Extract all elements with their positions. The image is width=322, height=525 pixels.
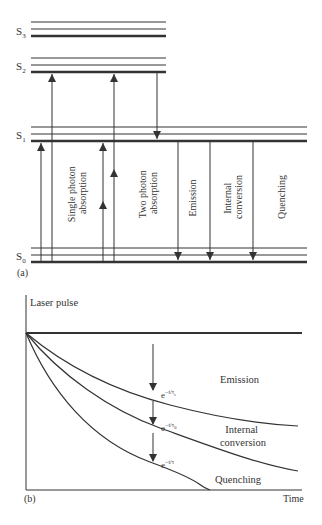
curve-label-emission: Emission bbox=[220, 374, 260, 385]
curve-label-quenching: Quenching bbox=[215, 474, 262, 485]
process-labels: Single photon absorption Two photon abso… bbox=[66, 164, 287, 222]
level-s2 bbox=[31, 58, 166, 72]
panel-a-label: (a) bbox=[17, 267, 28, 279]
jablonski-figure: S3 S2 S1 S0 (a) Single photon absorption… bbox=[0, 0, 322, 525]
label-quenching: Quenching bbox=[276, 175, 287, 219]
quenching-curve bbox=[26, 333, 210, 490]
level-label-s2: S2 bbox=[16, 60, 26, 75]
s2-s1-relaxation-arrow bbox=[153, 72, 161, 139]
label-internal-conversion: Internal conversion bbox=[222, 175, 244, 219]
panel-a-energy-diagram bbox=[31, 22, 307, 262]
two-photon-arrows bbox=[99, 74, 118, 262]
level-labels: S3 S2 S1 S0 (a) bbox=[16, 25, 28, 279]
figure-canvas: S3 S2 S1 S0 (a) Single photon absorption… bbox=[0, 0, 322, 525]
level-label-s0: S0 bbox=[16, 250, 26, 265]
x-axis-label: Time bbox=[283, 493, 304, 504]
level-label-s1: S1 bbox=[16, 129, 26, 144]
level-s3 bbox=[31, 22, 166, 36]
rate-arrows bbox=[149, 344, 157, 462]
panel-b-label: (b) bbox=[24, 493, 36, 505]
level-label-s3: S3 bbox=[16, 25, 26, 40]
y-axis-label: Laser pulse bbox=[30, 297, 78, 308]
label-single-photon: Single photon absorption bbox=[66, 164, 88, 222]
level-s0 bbox=[31, 248, 307, 262]
label-emission: Emission bbox=[187, 179, 198, 216]
single-photon-arrows bbox=[37, 74, 56, 262]
curve-label-internal-conversion: Internal conversion bbox=[220, 424, 267, 448]
label-two-photon: Two photon absorption bbox=[137, 168, 159, 218]
level-s1 bbox=[31, 127, 307, 141]
expr-emission: e−t/τe bbox=[161, 389, 176, 400]
